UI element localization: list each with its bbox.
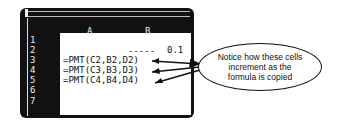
callout-line-2: increment as the xyxy=(199,62,321,72)
callout-text: Notice how these cells increment as the … xyxy=(199,52,321,82)
callout-bubble: Notice how these cells increment as the … xyxy=(198,43,322,91)
callout-line-1: Notice how these cells xyxy=(199,52,321,62)
callout-line-3: formula is copied xyxy=(199,72,321,82)
